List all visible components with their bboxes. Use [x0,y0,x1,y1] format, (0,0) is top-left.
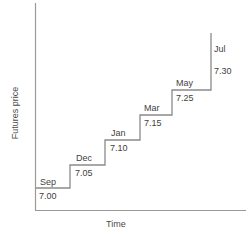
y-axis-label: Futures price [10,63,20,163]
step-price-label-sep: 7.00 [39,191,57,201]
step-price-label-jan: 7.10 [110,143,128,153]
step-price-label-may: 7.25 [176,93,194,103]
futures-price-step-chart: Futures price Time Sep 7.00 Dec 7.05 Jan… [0,0,252,234]
step-month-label-may: May [176,78,193,88]
step-month-label-dec: Dec [76,153,92,163]
step-month-label-jan: Jan [111,128,126,138]
step-price-label-mar: 7.15 [144,118,162,128]
step-month-label-jul: Jul [214,44,226,54]
step-price-label-dec: 7.05 [75,168,93,178]
x-axis-label: Time [106,219,126,229]
chart-plot-area [0,0,252,234]
step-price-label-jul: 7.30 [214,66,232,76]
step-line-series [36,33,211,188]
step-month-label-sep: Sep [40,177,56,187]
step-month-label-mar: Mar [144,103,160,113]
